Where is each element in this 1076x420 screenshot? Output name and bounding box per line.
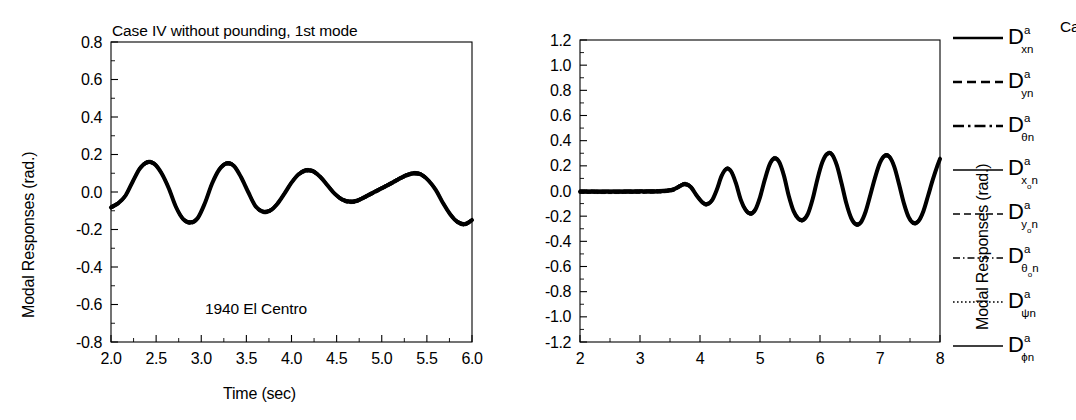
svg-text:5.0: 5.0 [371, 350, 393, 367]
svg-text:0.6: 0.6 [81, 71, 103, 88]
svg-text:4.5: 4.5 [326, 350, 348, 367]
svg-text:0.4: 0.4 [550, 132, 572, 149]
legend-line-swatch [952, 251, 1004, 265]
svg-text:-0.8: -0.8 [545, 283, 571, 300]
legend-line-swatch [952, 31, 1004, 45]
legend-item[interactable]: Daψn [952, 282, 1076, 322]
legend-line-swatch [952, 339, 1004, 353]
svg-text:-0.4: -0.4 [545, 233, 571, 250]
svg-text:2.5: 2.5 [146, 350, 168, 367]
svg-text:-0.6: -0.6 [545, 258, 571, 275]
svg-text:5.5: 5.5 [416, 350, 438, 367]
svg-text:3.5: 3.5 [236, 350, 258, 367]
svg-text:-0.2: -0.2 [76, 221, 102, 238]
svg-text:0.0: 0.0 [550, 183, 572, 200]
series-trace [580, 152, 940, 224]
legend-line-swatch [952, 163, 1004, 177]
legend-item-label: Dayon [1008, 201, 1047, 229]
series-trace [111, 160, 472, 222]
legend-item[interactable]: Daϕn [952, 326, 1076, 366]
svg-text:0.4: 0.4 [81, 109, 103, 126]
series-trace [580, 151, 940, 223]
svg-text:0.8: 0.8 [81, 34, 103, 51]
legend: DaxnDaynDaθnDaxonDayonDaθonDaψnDaϕn [952, 0, 1076, 420]
svg-text:2: 2 [576, 350, 585, 367]
legend-item[interactable]: Daθn [952, 106, 1076, 146]
svg-text:-0.8: -0.8 [76, 334, 102, 351]
legend-line-swatch [952, 75, 1004, 89]
legend-item-label: Daθn [1008, 114, 1043, 140]
plot-area-left: -0.8-0.6-0.4-0.20.00.20.40.60.82.02.53.0… [0, 0, 490, 420]
chart-panel-left: Case IV without pounding, 1st mode Modal… [0, 0, 490, 420]
svg-text:6: 6 [816, 350, 825, 367]
svg-text:2.0: 2.0 [100, 350, 122, 367]
svg-text:0.0: 0.0 [81, 184, 103, 201]
legend-line-swatch [952, 207, 1004, 221]
figure-root: Case IV without pounding, 1st mode Modal… [0, 0, 1076, 420]
legend-item-label: Daϕn [1008, 334, 1043, 360]
legend-item[interactable]: Daθon [952, 238, 1076, 278]
svg-text:6.0: 6.0 [461, 350, 483, 367]
svg-text:7: 7 [876, 350, 885, 367]
svg-text:0.6: 0.6 [550, 107, 572, 124]
series-trace [111, 161, 472, 223]
legend-line-swatch [952, 295, 1004, 309]
svg-text:1.2: 1.2 [550, 32, 572, 49]
svg-text:-0.6: -0.6 [76, 296, 102, 313]
legend-item-label: Daxon [1008, 157, 1047, 185]
legend-item-label: Daψn [1008, 290, 1045, 316]
svg-text:0.8: 0.8 [550, 82, 572, 99]
legend-line-swatch [952, 119, 1004, 133]
svg-text:4.0: 4.0 [281, 350, 303, 367]
svg-text:-1.2: -1.2 [545, 334, 571, 351]
svg-text:8: 8 [936, 350, 945, 367]
legend-item[interactable]: Daxon [952, 150, 1076, 190]
legend-item[interactable]: Daxn [952, 18, 1076, 58]
plot-area-right: -1.2-1.0-0.8-0.6-0.4-0.20.00.20.40.60.81… [482, 0, 952, 420]
svg-text:3: 3 [636, 350, 645, 367]
legend-item-label: Dayn [1008, 70, 1042, 96]
svg-text:0.2: 0.2 [81, 146, 103, 163]
svg-text:1.0: 1.0 [550, 57, 572, 74]
chart-panel-right: Case IV without pounding, 1st mode Modal… [482, 0, 952, 420]
legend-item[interactable]: Dayon [952, 194, 1076, 234]
series-trace [580, 153, 940, 225]
legend-item-label: Daxn [1008, 26, 1042, 52]
svg-text:-0.4: -0.4 [76, 259, 102, 276]
svg-text:0.2: 0.2 [550, 157, 572, 174]
svg-text:3.0: 3.0 [191, 350, 213, 367]
legend-item[interactable]: Dayn [952, 62, 1076, 102]
svg-text:-0.2: -0.2 [545, 208, 571, 225]
svg-text:-1.0: -1.0 [545, 308, 571, 325]
svg-text:5: 5 [756, 350, 765, 367]
legend-item-label: Daθon [1008, 245, 1048, 273]
svg-text:4: 4 [696, 350, 705, 367]
